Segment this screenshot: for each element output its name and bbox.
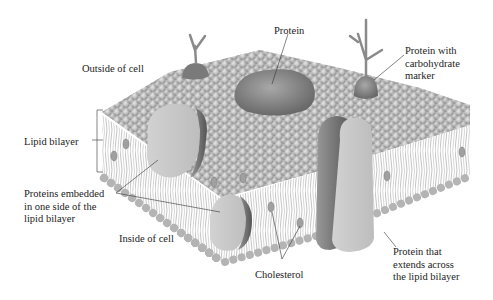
label-transmembrane-protein: Protein that extends across the lipid bi… bbox=[393, 246, 459, 284]
label-inside-of-cell: Inside of cell bbox=[119, 233, 174, 246]
glycoprotein-left bbox=[182, 35, 209, 80]
label-embedded-proteins: Proteins embedded in one side of the lip… bbox=[24, 188, 104, 226]
membrane-diagram: Outside of cell Protein Protein with car… bbox=[0, 0, 493, 300]
label-protein: Protein bbox=[274, 25, 304, 38]
embedded-protein-outer bbox=[147, 103, 207, 178]
label-outside-of-cell: Outside of cell bbox=[82, 63, 144, 76]
label-protein-carbohydrate-marker: Protein with carbohydrate marker bbox=[405, 45, 460, 83]
embedded-protein-inner bbox=[210, 194, 252, 251]
label-lipid-bilayer: Lipid bilayer bbox=[24, 136, 79, 149]
label-cholesterol: Cholesterol bbox=[255, 269, 303, 282]
transmembrane-protein bbox=[316, 116, 374, 252]
